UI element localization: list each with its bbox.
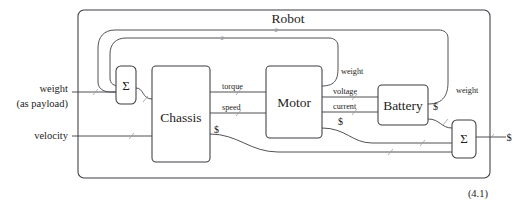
wire-battery-money <box>428 119 452 128</box>
input-label-weight-line2: (as payload) <box>16 98 68 110</box>
port-label-voltage: voltage <box>333 87 357 96</box>
block-label-motor: Motor <box>277 95 311 110</box>
input-label-weight-line1: weight <box>39 83 68 94</box>
block-label-sum-right: Σ <box>460 131 468 146</box>
loop-marker-inner: 2 <box>220 34 223 41</box>
wire-sumleft-to-chassis <box>136 88 152 99</box>
wire-motor-money <box>322 128 452 143</box>
wiring-diagram: 2 2 Robot Chassis Motor Battery Σ Σ weig… <box>0 0 516 207</box>
port-label-torque: torque <box>222 82 243 91</box>
output-label-money: $ <box>506 132 511 143</box>
port-label-money-chassis: $ <box>214 124 219 135</box>
port-label-money-motor: $ <box>338 116 343 127</box>
equation-number: (4.1) <box>468 188 489 200</box>
input-label-velocity: velocity <box>34 130 69 141</box>
loop-marker-outer: 2 <box>274 26 277 33</box>
port-label-current: current <box>333 102 357 111</box>
figure-root: 2 2 Robot Chassis Motor Battery Σ Σ weig… <box>0 0 516 207</box>
port-label-weight-battery: weight <box>456 86 479 95</box>
port-label-money-battery: $ <box>433 101 438 112</box>
block-label-sum-left: Σ <box>122 78 130 93</box>
block-label-battery: Battery <box>383 98 423 113</box>
port-label-weight-motor: weight <box>341 67 364 76</box>
block-label-chassis: Chassis <box>160 110 201 125</box>
figure-title: Robot <box>271 11 304 26</box>
port-label-speed: speed <box>222 103 241 112</box>
